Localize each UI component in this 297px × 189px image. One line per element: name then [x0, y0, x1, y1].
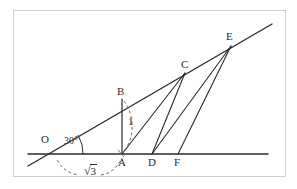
radical-radicand: 3 [90, 164, 98, 177]
label-base-length: √3 [84, 165, 97, 177]
label-angle-30: 30° [64, 136, 78, 146]
base-arc-dashed-left [57, 160, 79, 175]
segment-dc [152, 73, 185, 154]
segment-ac [122, 73, 185, 154]
label-point-d: D [148, 157, 156, 168]
label-point-b: B [117, 86, 124, 97]
label-point-f: F [174, 157, 180, 168]
label-point-c: C [181, 59, 188, 70]
label-unit-length: 1 [128, 116, 134, 127]
label-point-e: E [226, 31, 233, 42]
label-origin: O [41, 134, 49, 145]
angle-arc-30 [78, 135, 83, 154]
geometry-figure: O 30° A B C D E F 1 √3 [0, 0, 297, 189]
label-point-a: A [118, 157, 126, 168]
